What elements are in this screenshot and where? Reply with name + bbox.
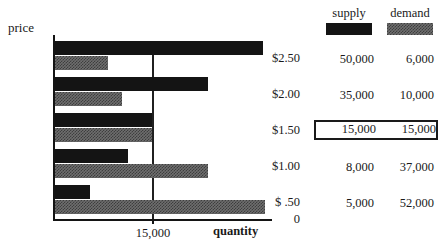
gridline-15000 <box>152 41 154 219</box>
x-axis-tick-mark <box>152 219 154 224</box>
y-tick-label-150: $1.50 <box>252 124 300 137</box>
bar-demand-200 <box>55 92 122 106</box>
table-row: 50,000 6,000 <box>314 50 438 70</box>
bar-supply-250 <box>55 41 263 55</box>
bar-demand-100 <box>55 164 208 178</box>
cell-supply: 50,000 <box>314 52 374 67</box>
table-row: 5,000 52,000 <box>314 194 438 214</box>
legend-item-demand: demand <box>380 6 440 35</box>
y-tick-label-200: $2.00 <box>252 88 300 101</box>
legend-label-demand: demand <box>380 6 440 20</box>
cell-demand: 37,000 <box>376 160 434 175</box>
bar-demand-150 <box>55 128 152 142</box>
legend-swatch-supply-icon <box>326 23 372 35</box>
table-row: 8,000 37,000 <box>314 158 438 178</box>
legend-label-supply: supply <box>319 6 379 20</box>
bar-supply-100 <box>55 149 128 163</box>
cell-demand: 52,000 <box>376 196 434 211</box>
y-tick-label-100: $1.00 <box>252 160 300 173</box>
bar-demand-250 <box>55 56 108 70</box>
cell-demand: 15,000 <box>378 122 436 137</box>
cell-supply: 15,000 <box>316 122 376 137</box>
x-axis-title: quantity <box>213 224 258 238</box>
y-axis-title: price <box>8 21 34 35</box>
cell-demand: 10,000 <box>376 88 434 103</box>
data-table-panel: supply demand 50,000 6,000 35,000 10,000… <box>300 0 447 250</box>
table-row-equilibrium: 15,000 15,000 <box>314 120 438 140</box>
bar-supply-150 <box>55 113 152 127</box>
bar-demand-050 <box>55 200 265 214</box>
x-tick-label-15000: 15,000 <box>112 226 194 240</box>
bar-supply-200 <box>55 77 208 91</box>
legend-swatch-demand-icon <box>387 23 433 35</box>
cell-supply: 8,000 <box>314 160 374 175</box>
cell-supply: 35,000 <box>314 88 374 103</box>
y-tick-label-zero: 0 <box>252 213 300 226</box>
cell-demand: 6,000 <box>376 52 434 67</box>
table-row: 35,000 10,000 <box>314 86 438 106</box>
bar-chart: price $2.50 $2.00 $1.50 $1.00 $ .50 0 15… <box>0 0 300 250</box>
legend-item-supply: supply <box>319 6 379 35</box>
cell-supply: 5,000 <box>314 196 374 211</box>
bar-supply-050 <box>55 185 90 199</box>
x-axis-line <box>53 219 272 221</box>
